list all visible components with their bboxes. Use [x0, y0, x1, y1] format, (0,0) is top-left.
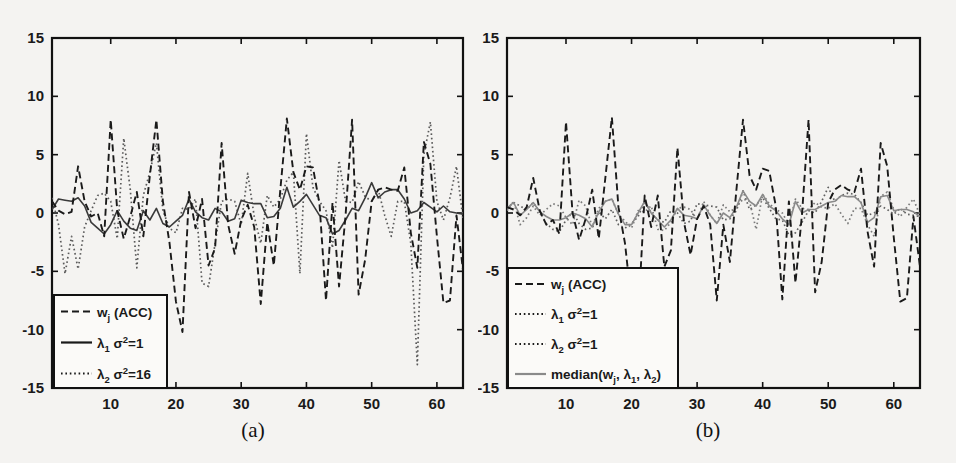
x-tick-label: 50: [363, 395, 380, 412]
x-tick-label: 50: [820, 395, 837, 412]
y-tick-label: 5: [491, 146, 499, 163]
y-tick-label: -5: [486, 262, 499, 279]
y-tick-label: -10: [22, 321, 44, 338]
x-tick-label: 10: [102, 395, 119, 412]
x-tick-label: 10: [558, 395, 575, 412]
y-tick-label: 15: [482, 29, 499, 46]
panel-b-plot: 102030405060151050-5-10-15wj (ACC)λ1 σ2=…: [478, 0, 956, 463]
panel-caption: (b): [696, 418, 721, 442]
x-tick-label: 40: [754, 395, 771, 412]
legend-a: wj (ACC)λ1 σ2=1λ2 σ2=16: [54, 295, 167, 388]
panel-a: 102030405060151050-5-10-15wj (ACC)λ1 σ2=…: [0, 0, 478, 463]
data-series-line: [507, 191, 920, 227]
x-tick-label: 60: [429, 395, 446, 412]
y-tick-label: -15: [478, 379, 499, 396]
x-tick-label: 30: [689, 395, 706, 412]
data-series-line: [507, 187, 920, 235]
y-tick-label: 10: [482, 87, 499, 104]
x-tick-label: 20: [168, 395, 185, 412]
figure-container: 102030405060151050-5-10-15wj (ACC)λ1 σ2=…: [0, 0, 956, 463]
y-tick-label: 10: [27, 87, 44, 104]
data-series-line: [52, 183, 463, 234]
y-tick-label: 5: [36, 146, 44, 163]
x-tick-label: 30: [233, 395, 250, 412]
panel-a-plot: 102030405060151050-5-10-15wj (ACC)λ1 σ2=…: [0, 0, 478, 463]
y-tick-label: -15: [22, 379, 44, 396]
y-tick-label: -10: [478, 321, 499, 338]
legend-b: wj (ACC)λ1 σ2=1λ2 σ2=1median(wj, λ1, λ2): [508, 268, 678, 388]
y-tick-label: 15: [27, 29, 44, 46]
y-tick-label: -5: [31, 262, 44, 279]
y-tick-label: 0: [36, 204, 44, 221]
panel-caption: (a): [241, 418, 264, 442]
x-tick-label: 20: [623, 395, 640, 412]
y-tick-label: 0: [491, 204, 499, 221]
x-tick-label: 60: [885, 395, 902, 412]
x-tick-label: 40: [298, 395, 315, 412]
panel-b: 102030405060151050-5-10-15wj (ACC)λ1 σ2=…: [478, 0, 956, 463]
